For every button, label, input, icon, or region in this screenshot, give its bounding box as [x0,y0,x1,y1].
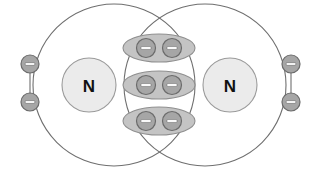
electron-minus-sign [167,84,177,87]
atom-right-label: N [224,77,236,96]
electron-minus-sign [141,120,151,123]
electron-minus-sign [167,120,177,123]
shared-pair-middle [123,71,195,99]
electron-minus-icon-shared-top-left [137,39,156,58]
electron-minus-icon-lone-left-upper [21,55,39,73]
atom-left: N [62,58,116,112]
shared-pair-bottom [123,107,195,135]
shared-electron-pairs-group [123,34,195,135]
shared-pair-top [123,34,195,62]
electron-minus-icon-shared-bottom-left [137,112,156,131]
electron-minus-sign [25,101,34,104]
electron-minus-icon-shared-top-right [163,39,182,58]
electron-minus-icon-lone-right-upper [282,55,300,73]
electron-minus-sign [167,47,177,50]
electron-minus-sign [286,101,295,104]
atom-right: N [203,58,257,112]
atom-left-label: N [83,77,95,96]
shared-electron-pair-icon-shared-pair-top [123,34,195,62]
electron-minus-icon-shared-bottom-right [163,112,182,131]
electron-minus-sign [141,47,151,50]
electron-minus-icon-lone-left-lower [21,93,39,111]
electron-minus-icon-lone-right-lower [282,93,300,111]
diagram-canvas: N N [0,0,319,170]
electron-minus-sign [25,63,34,66]
shared-electron-pair-icon-shared-pair-middle [123,71,195,99]
electron-minus-sign [141,84,151,87]
electron-minus-icon-shared-middle-left [137,76,156,95]
electron-minus-sign [286,63,295,66]
n2-molecule-diagram: N N [0,0,319,170]
electron-minus-icon-shared-middle-right [163,76,182,95]
shared-electron-pair-icon-shared-pair-bottom [123,107,195,135]
